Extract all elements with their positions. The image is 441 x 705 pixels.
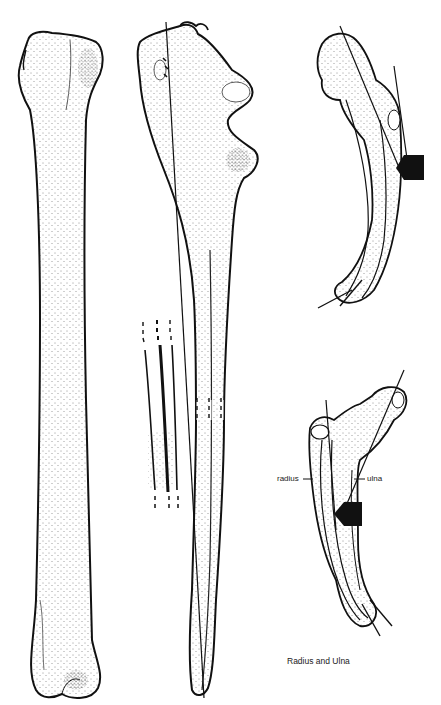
figure-caption: Radius and Ulna <box>287 656 350 666</box>
radius-ulna-lower-view <box>303 370 406 636</box>
ulna-label: ulna <box>367 474 382 483</box>
shaft-curvature-detail <box>143 320 178 508</box>
radius-label: radius <box>277 474 299 483</box>
ulna-long-bone <box>138 22 258 698</box>
radius-ulna-upper-view <box>318 26 425 308</box>
radius-long-bone <box>19 32 103 698</box>
illustration-canvas <box>0 0 441 705</box>
